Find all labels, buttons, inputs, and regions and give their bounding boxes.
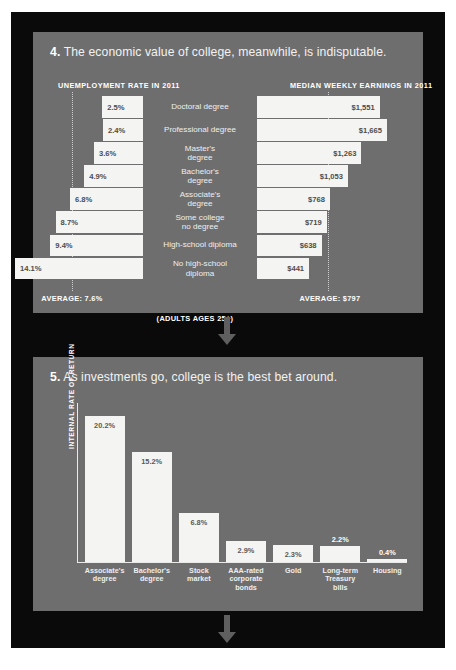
chart-row: 3.6%Master'sdegree$1,263 [0,142,390,164]
unemployment-value: 2.4% [108,125,125,134]
category-label: Master'sdegree [145,144,255,162]
unemployment-bar: 3.6% [94,142,143,164]
panel-4-title-text: The economic value of college, meanwhile… [64,45,387,59]
unemployment-value: 4.9% [89,172,106,181]
unemployment-value: 3.6% [99,148,116,157]
panel-4-number: 4. [50,45,60,59]
unemployment-value: 9.4% [55,241,72,250]
return-bar-value: 0.4% [367,548,407,557]
chart-row: 9.4%High-school diploma$638 [0,235,390,257]
panel-4-title: 4. The economic value of college, meanwh… [50,45,387,59]
panel-5-title-text: As investments go, college is the best b… [63,370,337,384]
average-label-unemployment: AVERAGE: 7.6% [41,294,102,303]
return-bar-value: 2.2% [320,535,360,544]
unemployment-bar: 9.4% [50,235,143,257]
internal-rate-of-return-chart: INTERNAL RATE OF RETURN 20.2%Associate's… [77,403,407,563]
category-label: Bachelor'sdegree [145,167,255,185]
unemployment-bar: 6.8% [70,188,143,210]
earnings-bar: $638 [257,235,322,257]
earnings-bar: $719 [257,211,327,233]
return-bar-value: 2.9% [226,546,266,555]
chart-row: 8.7%Some collegeno degree$719 [0,211,390,233]
diverging-bar-chart: 2.5%Doctoral degree$1,5512.4%Professiona… [0,96,390,281]
category-label: Doctoral degree [145,102,255,111]
return-bar: 15.2% [132,452,172,562]
return-bar: 20.2% [85,416,125,562]
return-bar: 2.2% [320,546,360,562]
infographic-page: 4. The economic value of college, meanwh… [0,0,456,670]
earnings-value: $768 [308,195,325,204]
return-bar-value: 15.2% [132,457,172,466]
earnings-value: $638 [300,241,317,250]
return-bar-value: 6.8% [179,518,219,527]
unemployment-value: 14.1% [20,264,42,273]
return-bar: 0.4% [367,559,407,562]
return-bar-value: 2.3% [273,550,313,559]
return-category-label: Housing [359,567,415,575]
return-bar: 2.9% [226,541,266,562]
unemployment-value: 8.7% [61,218,78,227]
category-label: No high-schooldiploma [145,259,255,277]
category-label: Some collegeno degree [145,213,255,231]
footnote-adults-ages: (ADULTS AGES 25+) [157,314,234,323]
panel-investment-returns: 5. As investments go, college is the bes… [33,357,423,611]
heading-median-weekly-earnings: MEDIAN WEEKLY EARNINGS IN 2011 [290,81,432,90]
earnings-value: $1,263 [333,148,356,157]
earnings-bar: $768 [257,188,330,210]
earnings-value: $441 [287,264,304,273]
average-label-earnings: AVERAGE: $797 [300,294,361,303]
return-bar: 2.3% [273,545,313,562]
unemployment-bar: 4.9% [84,165,143,187]
category-label: High-school diploma [145,241,255,250]
category-label: Associate'sdegree [145,190,255,208]
earnings-value: $719 [305,218,322,227]
chart-row: 14.1%No high-schooldiploma$441 [0,258,390,280]
return-bar: 6.8% [179,513,219,562]
unemployment-bar: 2.4% [103,119,143,141]
chart-row: 4.9%Bachelor'sdegree$1,053 [0,165,390,187]
return-bar-value: 20.2% [85,421,125,430]
unemployment-value: 6.8% [75,195,92,204]
unemployment-bar: 14.1% [15,258,143,280]
panel-5-number: 5. [50,370,60,384]
y-axis-title: INTERNAL RATE OF RETURN [68,344,75,449]
earnings-bar: $1,665 [257,119,387,141]
chart-row: 2.4%Professional degree$1,665 [0,119,390,141]
category-label: Professional degree [145,125,255,134]
earnings-bar: $1,263 [257,142,361,164]
unemployment-bar: 2.5% [102,96,143,118]
unemployment-bar: 8.7% [56,211,143,233]
bar-group: 20.2%Associate'sdegree15.2%Bachelor'sdeg… [77,403,407,563]
chart-row: 2.5%Doctoral degree$1,551 [0,96,390,118]
earnings-value: $1,665 [359,125,382,134]
earnings-value: $1,551 [351,102,374,111]
chart-row: 6.8%Associate'sdegree$768 [0,188,390,210]
earnings-bar: $441 [257,258,309,280]
earnings-bar: $1,551 [257,96,380,118]
earnings-bar: $1,053 [257,165,348,187]
heading-unemployment-rate: UNEMPLOYMENT RATE IN 2011 [58,81,180,90]
earnings-value: $1,053 [320,172,343,181]
panel-5-title: 5. As investments go, college is the bes… [50,370,337,384]
unemployment-value: 2.5% [107,102,124,111]
